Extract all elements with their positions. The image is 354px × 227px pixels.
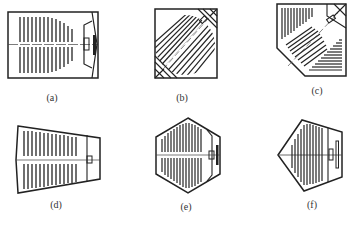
figure-label-d: (d) [36,199,76,210]
figure-label-a: (a) [32,92,72,103]
figure-a: (a) [0,0,120,113]
figure-f: (f) [234,113,354,227]
figure-label-b: (b) [162,92,202,103]
figure-b: (b) [115,0,235,113]
figure-label-f: (f) [292,199,332,210]
figure-label-c: (c) [297,85,337,96]
diagram-cut-corner-hall [234,0,354,113]
figure-label-e: (e) [166,201,206,212]
figure-d: (d) [0,113,120,227]
figure-e: (e) [115,113,235,227]
figure-c: (c) [234,0,354,113]
